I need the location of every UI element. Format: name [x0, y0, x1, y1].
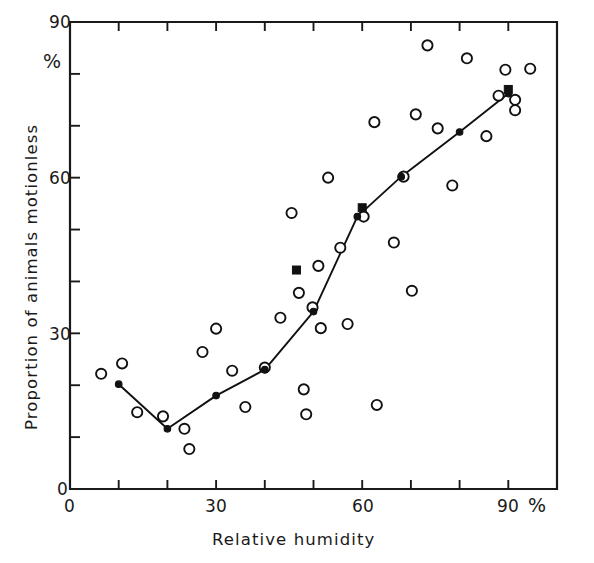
data-point-open [493, 91, 503, 101]
data-point-open [389, 237, 399, 247]
data-point-open [510, 105, 520, 115]
data-point-filled [164, 426, 171, 433]
data-point-square [292, 266, 300, 274]
data-point-open [500, 65, 510, 75]
data-point-square [504, 85, 512, 93]
data-point-open [240, 402, 250, 412]
data-point-open [316, 323, 326, 333]
data-point-open [411, 109, 421, 119]
data-point-open [117, 358, 127, 368]
x-tick-label-0: 0 [64, 496, 75, 516]
data-point-filled [354, 213, 361, 220]
data-point-filled [456, 129, 463, 136]
y-tick-label-90: 90 [49, 12, 71, 32]
data-point-filled [310, 308, 317, 315]
data-point-open [447, 180, 457, 190]
data-point-open [211, 324, 221, 334]
data-point-open [433, 123, 443, 133]
data-point-open [462, 53, 472, 63]
data-point-open [372, 400, 382, 410]
x-tick-label-30: 30 [205, 496, 227, 516]
x-axis-title: Relative humidity [212, 530, 375, 549]
data-point-open [227, 366, 237, 376]
data-point-open [525, 64, 535, 74]
data-point-open [158, 411, 168, 421]
data-point-open [335, 243, 345, 253]
x-tick-label-90: 90 [497, 496, 519, 516]
y-tick-label-30: 30 [49, 324, 71, 344]
data-point-open [275, 313, 285, 323]
x-axis-unit-percent: % [528, 494, 546, 516]
data-point-open [481, 131, 491, 141]
data-point-open [510, 95, 520, 105]
axis-ticks [70, 22, 508, 489]
axis-frame [70, 22, 557, 489]
y-tick-label-60: 60 [49, 168, 71, 188]
x-tick-label-60: 60 [352, 496, 374, 516]
data-point-open [369, 117, 379, 127]
data-point-filled [398, 173, 405, 180]
data-point-open [132, 407, 142, 417]
y-axis-unit-percent: % [43, 50, 61, 72]
data-point-open [299, 384, 309, 394]
data-point-filled [115, 381, 122, 388]
data-point-open [323, 173, 333, 183]
data-point-open [407, 286, 417, 296]
y-axis-title: Proportion of animals motionless [22, 124, 41, 430]
data-point-open [422, 40, 432, 50]
trend-polyline [119, 94, 509, 429]
data-point-open [197, 347, 207, 357]
data-point-open [301, 409, 311, 419]
data-point-open [342, 319, 352, 329]
data-point-open [294, 288, 304, 298]
data-point-open [179, 424, 189, 434]
plot-axes [70, 22, 557, 489]
data-point-filled [213, 392, 220, 399]
data-point-open [286, 208, 296, 218]
data-point-open [96, 369, 106, 379]
data-point-open [313, 261, 323, 271]
data-point-open [184, 444, 194, 454]
data-point-square [358, 204, 366, 212]
data-points [96, 40, 535, 454]
scatter-plot [0, 0, 594, 563]
trend-line [119, 94, 509, 429]
figure-container: 90 % 60 30 0 0 30 60 90 % Proportion of … [0, 0, 594, 563]
data-point-filled [262, 366, 269, 373]
